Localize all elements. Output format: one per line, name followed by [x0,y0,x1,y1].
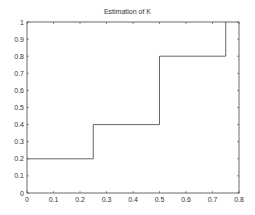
y-tick-label: 0.7 [14,70,24,77]
x-tick-label: 0.4 [128,196,138,203]
x-tick-label: 0.3 [102,196,112,203]
y-tick-label: 0.2 [14,155,24,162]
x-tick-label: 0 [25,196,29,203]
y-tick-label: 0.5 [14,104,24,111]
x-tick-label: 0.5 [155,196,165,203]
plot-frame [27,22,239,193]
y-tick-label: 0.4 [14,121,24,128]
y-tick-label: 0.6 [14,87,24,94]
x-tick-label: 0.1 [49,196,59,203]
y-tick-label: 0.8 [14,53,24,60]
step-line [27,22,226,159]
x-tick-label: 0.7 [208,196,218,203]
x-tick-label: 0.8 [234,196,244,203]
y-tick-label: 0 [20,190,24,197]
step-chart: 00.10.20.30.40.50.60.70.800.10.20.30.40.… [0,0,255,215]
data-series [27,22,226,159]
x-tick-label: 0.2 [75,196,85,203]
axes: 00.10.20.30.40.50.60.70.800.10.20.30.40.… [14,19,244,204]
y-tick-label: 0.1 [14,172,24,179]
y-tick-label: 0.3 [14,138,24,145]
y-tick-label: 1 [20,19,24,26]
x-tick-label: 0.6 [181,196,191,203]
y-tick-label: 0.9 [14,36,24,43]
